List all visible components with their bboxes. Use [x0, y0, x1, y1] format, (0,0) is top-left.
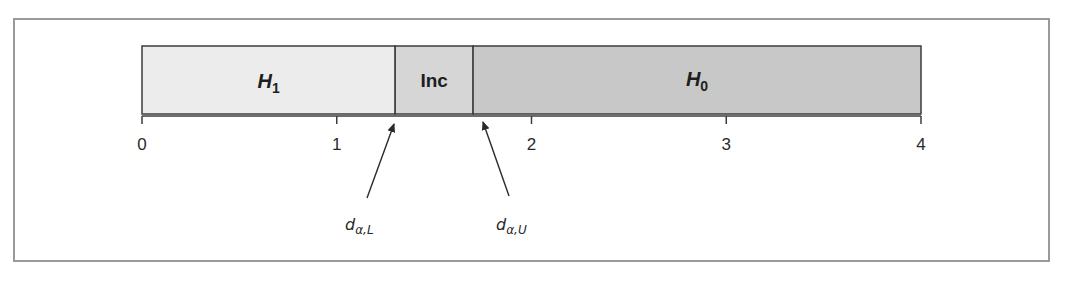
axis-tick-label: 3 — [722, 135, 731, 154]
critical-value-lower-label: dα,L — [345, 215, 374, 237]
axis-tick-label: 0 — [137, 135, 146, 154]
axis-ticks: 01234 — [137, 116, 925, 154]
axis-tick-label: 4 — [916, 135, 925, 154]
axis-tick-label: 1 — [332, 135, 341, 154]
critical-value-upper-label: dα,U — [496, 215, 527, 237]
arrow-lower-critical — [367, 124, 394, 198]
decision-diagram: H1 Inc H0 01234 dα,L dα,U — [0, 0, 1066, 284]
axis-tick-label: 2 — [527, 135, 536, 154]
arrow-upper-critical — [483, 122, 509, 196]
region-label-inc: Inc — [420, 70, 448, 91]
